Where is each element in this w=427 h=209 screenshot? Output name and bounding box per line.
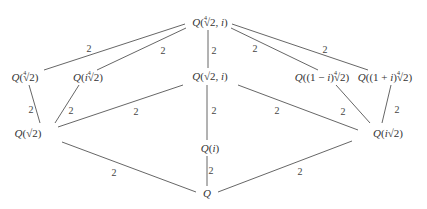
node-qir2: Q(i√2) <box>373 127 403 139</box>
edge-qi4r2-qr2 <box>55 85 79 123</box>
edge-top-qi4r2 <box>97 28 186 70</box>
edge-q1pi-qir2 <box>382 85 391 123</box>
node-top: Q(4√2, i) <box>192 15 227 28</box>
edge-degree-label: 2 <box>253 43 258 54</box>
node-q1pi: Q((1 + i)4√2) <box>358 70 412 83</box>
edge-qr2i-qr2 <box>58 85 183 127</box>
edge-degree-label: 2 <box>112 167 117 178</box>
edge-degree-label: 2 <box>323 44 328 55</box>
node-q1mi: Q((1 − i)4√2) <box>295 70 349 83</box>
node-qi4r2: Q(i4√2) <box>73 70 103 83</box>
edge-degree-label: 2 <box>275 105 280 116</box>
node-q4r2: Q(4√2) <box>12 70 39 83</box>
edge-degree-label: 2 <box>209 165 214 176</box>
edge-q1mi-qir2 <box>336 85 370 123</box>
edge-degree-label: 2 <box>69 105 74 116</box>
edge-degree-label: 2 <box>29 104 34 115</box>
edge-degree-label: 2 <box>212 45 217 56</box>
edge-degree-label: 2 <box>134 106 139 117</box>
edge-qir2-base <box>218 141 352 192</box>
edge-degree-label: 2 <box>341 106 346 117</box>
edge-degree-label: 2 <box>212 105 217 116</box>
node-qr2: Q(√2) <box>15 127 42 139</box>
node-qr2i: Q(√2, i) <box>192 70 227 82</box>
edge-degree-label: 2 <box>161 45 166 56</box>
node-base: Q <box>203 187 211 199</box>
node-qi: Q(i) <box>201 142 219 154</box>
edge-qr2-base <box>62 142 196 192</box>
edge-degree-label: 2 <box>87 43 92 54</box>
edge-degree-label: 2 <box>298 166 303 177</box>
edge-degree-label: 2 <box>395 104 400 115</box>
